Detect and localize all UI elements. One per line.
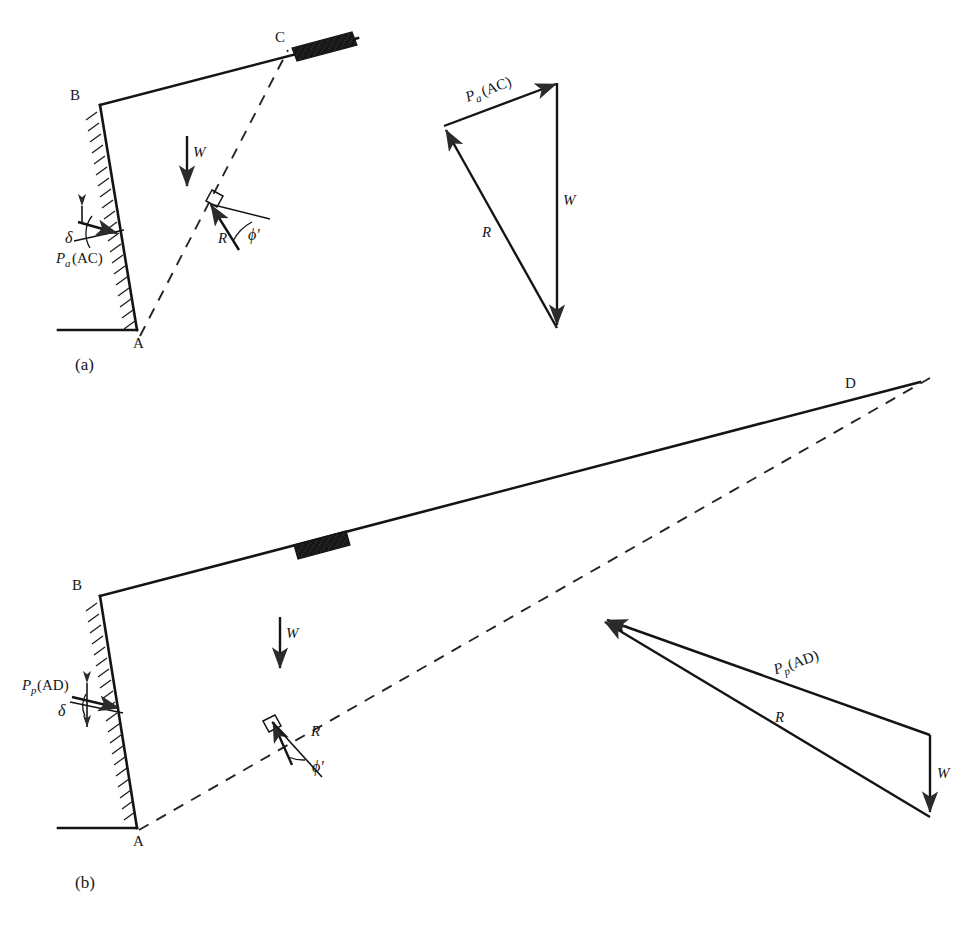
panel-a-reaction-group: R ϕ'	[206, 190, 270, 250]
panel-b-failure-plane	[139, 378, 930, 830]
svg-text:a: a	[65, 257, 71, 269]
panel-b-point-label-b: B	[72, 577, 82, 593]
panel-a-triangle-reaction-vector	[446, 130, 557, 328]
panel-a-pressure-vector	[78, 222, 117, 233]
panel-b-label: (b)	[75, 873, 95, 892]
panel-b-point-label-a: A	[133, 833, 144, 849]
panel-a-triangle-reaction-label: R	[481, 224, 491, 240]
panel-b-triangle-pressure-vector	[607, 620, 930, 735]
svg-text:P: P	[55, 250, 65, 266]
panel-b-triangle-reaction-vector	[605, 622, 930, 817]
panel-b-reaction-group: R ϕ'	[263, 715, 324, 777]
panel-a-force-triangle: W R P a (AC)	[444, 73, 577, 328]
panel-a-wall-hatching	[86, 112, 135, 329]
panel-a-pressure-label: P a (AC)	[55, 250, 103, 269]
panel-b-pressure-vector	[72, 697, 119, 708]
panel-a-triangle-weight-label: W	[563, 192, 577, 208]
panel-a-surcharge-block	[292, 32, 357, 61]
svg-text:(AC): (AC)	[479, 73, 514, 100]
panel-b-reaction-vector	[273, 722, 292, 765]
svg-text:p: p	[30, 684, 37, 696]
earth-pressure-figure: W R ϕ'	[0, 0, 974, 929]
panel-b-delta-label: δ	[58, 702, 66, 719]
figure-root: W R ϕ'	[0, 0, 974, 929]
panel-b-reaction-label: R	[310, 723, 320, 739]
panel-b-triangle-weight-label: W	[937, 765, 951, 781]
panel-a-delta-label: δ	[65, 229, 73, 246]
panel-a-reaction-label: R	[217, 230, 227, 246]
panel-a-label: (a)	[75, 355, 94, 374]
panel-a-point-label-b: B	[70, 87, 80, 103]
panel-b-wall-hatching	[86, 603, 135, 820]
panel-b: W R ϕ'	[21, 375, 930, 892]
panel-b-surcharge-block	[294, 531, 350, 559]
panel-a-friction-angle-label: ϕ'	[248, 226, 260, 244]
panel-b-point-label-d: D	[845, 375, 856, 391]
panel-a-point-label-a: A	[133, 335, 144, 351]
panel-a: W R ϕ'	[55, 29, 358, 374]
panel-b-force-triangle: W R P p (AD)	[605, 620, 951, 817]
panel-a-point-label-c: C	[275, 29, 285, 45]
panel-b-friction-angle-label: ϕ'	[312, 758, 324, 776]
panel-b-triangle-pressure-label: P p (AD)	[770, 647, 821, 680]
panel-a-weight-label: W	[193, 144, 207, 160]
svg-text:(AC): (AC)	[72, 250, 103, 267]
svg-text:(AD): (AD)	[786, 647, 821, 673]
panel-b-ground-surface	[100, 382, 920, 596]
svg-text:(AD): (AD)	[37, 677, 69, 694]
panel-b-triangle-reaction-label: R	[774, 709, 784, 725]
svg-text:P: P	[21, 677, 31, 693]
panel-b-pressure-label: P p (AD)	[21, 677, 69, 696]
panel-b-weight-label: W	[286, 625, 300, 641]
panel-a-delta-arc	[86, 216, 92, 248]
panel-a-failure-plane	[140, 50, 288, 336]
